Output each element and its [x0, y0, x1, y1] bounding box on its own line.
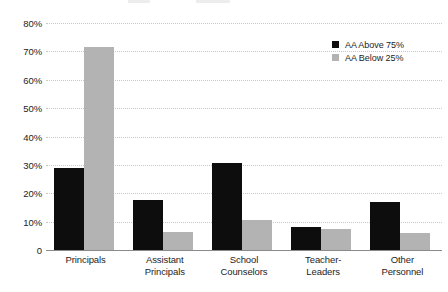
x-axis-label-line: Teacher- — [278, 254, 369, 266]
legend-label-below: AA Below 25% — [345, 53, 403, 63]
legend-item-above: AA Above 75% — [332, 38, 404, 51]
x-axis-label-line: Principals — [119, 266, 210, 278]
y-axis-tick-label: 0 — [2, 245, 42, 256]
x-axis-label-line: Personnel — [357, 266, 448, 278]
y-axis-tick-label: 60% — [2, 74, 42, 85]
x-axis-label-line: Principals — [40, 254, 131, 266]
x-axis-category-label: OtherPersonnel — [357, 254, 448, 277]
bar-group — [133, 23, 193, 250]
axis-baseline — [46, 250, 442, 252]
bar-below-25 — [400, 233, 430, 250]
x-axis-label-line: Counselors — [198, 266, 289, 278]
x-axis-label-line: Leaders — [278, 266, 369, 278]
y-axis-tick-label: 10% — [2, 216, 42, 227]
x-axis-label-line: Assistant — [119, 254, 210, 266]
legend-swatch-above-icon — [332, 41, 339, 48]
top-clip-artifact — [196, 0, 230, 3]
x-axis-category-label: Principals — [40, 254, 131, 266]
y-axis-tick-label: 50% — [2, 103, 42, 114]
bar-group — [212, 23, 272, 250]
legend-swatch-below-icon — [332, 54, 339, 61]
y-axis-tick-label: 70% — [2, 46, 42, 57]
bar-below-25 — [84, 47, 114, 250]
bar-below-25 — [321, 229, 351, 250]
x-axis-category-label: AssistantPrincipals — [119, 254, 210, 277]
y-axis-tick-label: 30% — [2, 159, 42, 170]
y-axis-tick-label: 20% — [2, 188, 42, 199]
x-axis-label-line: School — [198, 254, 289, 266]
bar-below-25 — [242, 220, 272, 250]
bar-above-75 — [133, 200, 163, 250]
bar-group — [54, 23, 114, 250]
bar-above-75 — [291, 227, 321, 250]
chart-legend: AA Above 75% AA Below 25% — [332, 38, 404, 64]
bar-chart: 010%20%30%40%50%60%70%80% PrincipalsAssi… — [0, 0, 448, 292]
top-clip-artifact — [128, 0, 150, 3]
legend-label-above: AA Above 75% — [345, 40, 404, 50]
bar-above-75 — [370, 202, 400, 250]
x-axis-category-label: Teacher-Leaders — [278, 254, 369, 277]
bar-above-75 — [212, 163, 242, 250]
y-axis-tick-label: 40% — [2, 131, 42, 142]
bar-below-25 — [163, 232, 193, 250]
legend-item-below: AA Below 25% — [332, 51, 404, 64]
bar-above-75 — [54, 168, 84, 250]
x-axis-label-line: Other — [357, 254, 448, 266]
x-axis-category-label: SchoolCounselors — [198, 254, 289, 277]
y-axis-tick-label: 80% — [2, 18, 42, 29]
